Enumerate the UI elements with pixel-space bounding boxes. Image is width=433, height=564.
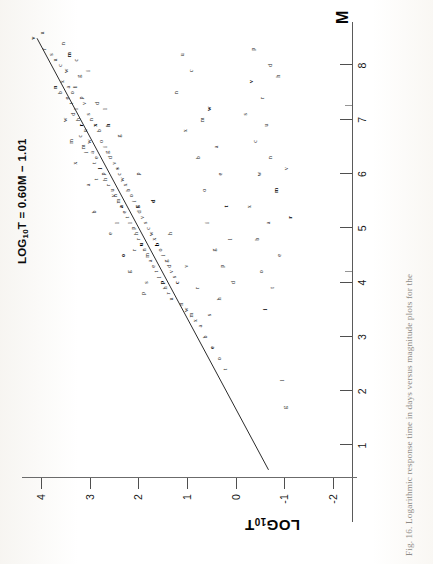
data-point: i [131, 200, 137, 202]
y-tick-label-0: 0 [230, 494, 242, 500]
data-point: n [141, 248, 147, 251]
y-tick--2 [333, 478, 334, 489]
data-point: u [39, 31, 45, 34]
data-point: c [174, 281, 180, 284]
data-point: m [115, 199, 121, 204]
data-point: t [91, 162, 97, 164]
y-tick-label-4: 4 [35, 494, 47, 500]
data-point: l [102, 108, 108, 110]
data-point: g [211, 248, 217, 251]
data-point: c [252, 140, 258, 143]
x-tick-label-7: 7 [356, 117, 368, 123]
data-point: b [125, 189, 131, 192]
data-point: o [69, 91, 75, 94]
data-point: m [66, 52, 72, 57]
data-point: b [154, 243, 160, 246]
data-point: u [179, 53, 185, 56]
data-point: w [206, 107, 212, 111]
data-point: x [151, 238, 157, 241]
data-point: e [93, 156, 99, 159]
data-point: c [116, 173, 122, 176]
data-point: n [178, 303, 184, 306]
data-point: w [148, 231, 154, 235]
data-point: a [85, 183, 91, 186]
data-point: s [242, 113, 248, 115]
data-point: g [282, 406, 288, 409]
data-point: h [275, 75, 281, 78]
data-point: g [116, 134, 122, 137]
data-point: s [206, 314, 212, 316]
y-tick-2 [138, 478, 139, 489]
data-point: i [72, 86, 78, 88]
data-point: v [111, 162, 117, 165]
data-point: d [166, 265, 172, 268]
x-tick-label-2: 2 [356, 388, 368, 394]
data-point: h [75, 118, 81, 121]
data-point: i [85, 70, 91, 72]
data-point: s [114, 167, 120, 169]
rotated-figure-stage: LOG10T = 0.60M − 1.01 LOG10T M 12345678 … [0, 0, 433, 564]
data-point: s [171, 276, 177, 278]
data-point: e [64, 97, 70, 100]
data-point: r [41, 48, 47, 50]
data-point: h [133, 232, 139, 235]
data-point: t [223, 206, 229, 208]
data-point: b [202, 335, 208, 338]
data-point: t [153, 271, 159, 273]
data-point: b [195, 156, 201, 159]
data-point: p [135, 172, 141, 175]
data-point: b [96, 129, 102, 132]
data-point: c [57, 64, 63, 67]
data-point: r [194, 287, 200, 289]
data-point: c [73, 59, 79, 62]
data-point: v [283, 167, 289, 170]
data-point: d [230, 281, 236, 284]
data-point: p [140, 292, 146, 295]
data-point: b [254, 238, 260, 241]
data-point: r [78, 124, 84, 127]
y-title-prefix: LOG [266, 517, 300, 534]
data-point: d [94, 102, 100, 105]
data-point: d [107, 156, 113, 159]
y-tick-label-3: 3 [84, 494, 96, 500]
data-point: v [30, 37, 36, 40]
data-point: w [62, 117, 68, 121]
data-point: w [183, 307, 189, 311]
data-point: o [258, 270, 264, 273]
data-point: p [250, 48, 256, 51]
data-point: d [150, 199, 156, 202]
data-point: p [159, 281, 165, 284]
data-point: d [70, 113, 76, 116]
data-point: o [128, 194, 134, 197]
data-point: e [209, 346, 215, 349]
data-point: v [110, 194, 116, 197]
data-point: u [168, 297, 174, 300]
data-point: a [118, 205, 124, 208]
data-point: p [130, 227, 136, 230]
data-point: r [105, 184, 111, 186]
data-point: e [107, 232, 113, 235]
data-point: o [157, 248, 163, 251]
data-point: e [150, 265, 156, 268]
data-point: m [273, 188, 279, 193]
data-point: p [219, 265, 225, 268]
y-title-subscript: 10 [254, 516, 266, 527]
data-point: d [136, 210, 142, 213]
y-tick-label--1: -1 [278, 494, 290, 504]
data-point: v [168, 270, 174, 273]
data-point: w [63, 69, 69, 73]
data-point: g [134, 205, 140, 208]
data-point: i [102, 146, 108, 148]
data-point: h [105, 123, 111, 126]
data-point: i [160, 255, 166, 257]
y-tick-label-2: 2 [132, 494, 144, 500]
data-point: x [192, 319, 198, 322]
y-tick-label-1: 1 [181, 494, 193, 500]
data-point: m [80, 144, 86, 149]
data-point: b [91, 210, 97, 213]
data-point: r [131, 249, 137, 251]
data-point: r [165, 292, 171, 294]
figure-caption-wrapper: Fig. 16. Logarithmic response time in da… [404, 126, 420, 556]
data-point: l [97, 168, 103, 170]
data-point: a [65, 86, 71, 89]
